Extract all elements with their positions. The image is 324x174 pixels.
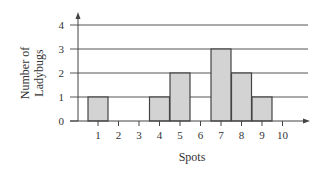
y-axis-title-line2: Ladybugs	[32, 49, 46, 97]
x-tick-labels: 12345678910	[95, 121, 288, 141]
x-tick-label: 5	[177, 129, 183, 141]
x-tick-label: 4	[157, 129, 163, 141]
y-tick-label: 1	[59, 91, 65, 103]
x-tick-label: 3	[136, 129, 142, 141]
x-tick-label: 2	[116, 129, 122, 141]
y-axis-arrow-icon	[76, 12, 81, 19]
x-tick-label: 7	[218, 129, 224, 141]
histogram-chart: 01234 12345678910 Spots Number of Ladybu…	[0, 0, 324, 174]
bars	[88, 49, 272, 121]
y-tick-label: 2	[59, 67, 65, 79]
y-tick-label: 4	[59, 19, 65, 31]
y-tick-labels: 01234	[59, 19, 65, 127]
x-tick-label: 6	[198, 129, 204, 141]
bar	[150, 97, 170, 121]
x-tick-label: 1	[95, 129, 101, 141]
x-tick-label: 9	[259, 129, 265, 141]
x-tick-label: 10	[277, 129, 289, 141]
y-axis-title-line1: Number of	[18, 47, 32, 99]
y-tick-label: 0	[59, 115, 65, 127]
bar	[88, 97, 108, 121]
y-tick-label: 3	[59, 43, 65, 55]
x-axis-arrow-icon	[303, 119, 310, 124]
bar	[170, 73, 190, 121]
bar	[211, 49, 231, 121]
x-tick-label: 8	[239, 129, 245, 141]
bar	[232, 73, 252, 121]
x-axis-title: Spots	[179, 150, 206, 164]
bar	[252, 97, 272, 121]
